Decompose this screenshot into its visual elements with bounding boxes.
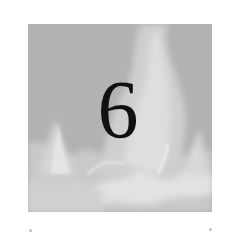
chapter-opener-image: 6 — [28, 24, 212, 212]
chapter-number-text: 6 — [98, 69, 139, 151]
page-mark-left — [29, 229, 32, 232]
chapter-number: 6 — [28, 24, 212, 212]
page-mark-right — [209, 228, 212, 231]
